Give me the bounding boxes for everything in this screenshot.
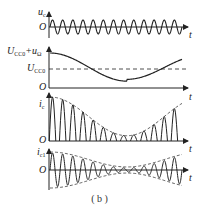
ic-t-label: t [189,144,192,154]
panel-ic1 [49,149,188,190]
ic1-axis-label: ic1 [37,147,45,158]
bias-origin-label: O [39,82,46,92]
ic1-t-label: t [189,173,192,183]
panel-bias [49,47,188,88]
uc-t-label: t [189,30,192,40]
ic1-origin-label: O [39,165,46,175]
panel-ic [49,93,188,141]
ic-axis-label: ic [39,99,44,110]
ic-origin-label: O [39,135,46,145]
waveform-diagram [0,0,199,210]
uc-axis-label: uc [38,7,46,18]
ucc0-ref-label: UCC0 [27,63,45,74]
bias-axis-label: UCC0+uΩ [7,46,41,57]
uc-origin-label: O [39,22,46,32]
bias-t-label: t [189,92,192,102]
panel-uc [49,12,188,38]
figure-caption: ( b ) [0,193,199,204]
